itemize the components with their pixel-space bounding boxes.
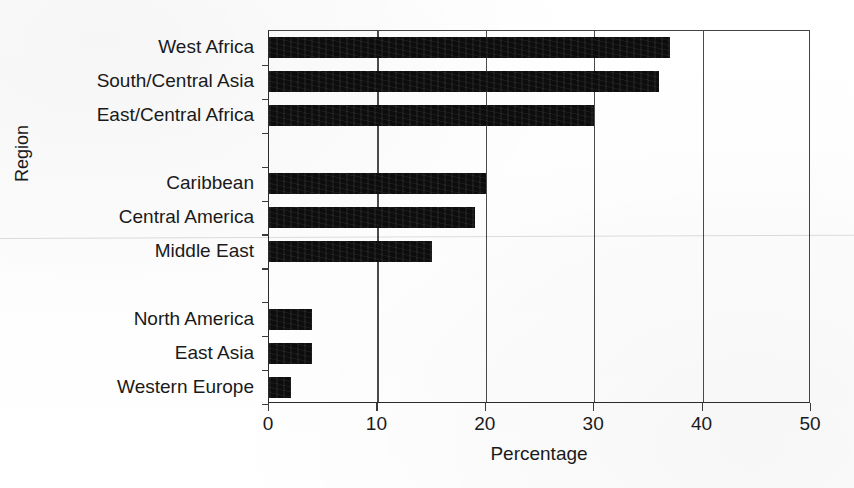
x-tick-label: 20 bbox=[474, 412, 495, 436]
y-tick bbox=[262, 167, 269, 168]
y-tick bbox=[262, 234, 269, 235]
bar bbox=[269, 207, 475, 228]
x-axis-title: Percentage bbox=[268, 443, 810, 465]
x-tick-0 bbox=[268, 403, 269, 411]
bar bbox=[269, 71, 659, 92]
y-axis-label: West Africa bbox=[158, 36, 254, 57]
y-tick bbox=[262, 370, 269, 371]
x-tick-label: 40 bbox=[691, 412, 712, 436]
bar bbox=[269, 173, 486, 194]
y-axis-label: South/Central Asia bbox=[97, 70, 254, 91]
y-axis-label: Western Europe bbox=[117, 376, 254, 397]
y-tick bbox=[262, 65, 269, 66]
bar-chart: West AfricaSouth/Central AsiaEast/Centra… bbox=[0, 0, 854, 488]
y-tick bbox=[262, 336, 269, 337]
x-tick-40 bbox=[702, 403, 703, 411]
y-axis-label: North America bbox=[134, 308, 254, 329]
y-axis-label: Caribbean bbox=[166, 172, 254, 193]
x-tick-10 bbox=[376, 403, 377, 411]
x-tick-label: 0 bbox=[263, 412, 274, 436]
y-tick bbox=[262, 99, 269, 100]
x-tick-label: 50 bbox=[799, 412, 820, 436]
bar bbox=[269, 377, 291, 398]
y-axis-category-labels: West AfricaSouth/Central AsiaEast/Centra… bbox=[0, 30, 262, 403]
x-tick-30 bbox=[593, 403, 594, 411]
bar bbox=[269, 309, 312, 330]
y-tick bbox=[262, 133, 269, 134]
y-tick bbox=[262, 268, 269, 269]
bar bbox=[269, 343, 312, 364]
gridline-40 bbox=[703, 31, 704, 402]
y-axis-label: Central America bbox=[119, 206, 254, 227]
x-tick-50 bbox=[810, 403, 811, 411]
bar bbox=[269, 105, 594, 126]
x-tick-label: 30 bbox=[583, 412, 604, 436]
bar bbox=[269, 37, 670, 58]
y-tick bbox=[262, 201, 269, 202]
x-tick-20 bbox=[485, 403, 486, 411]
y-axis-label: Middle East bbox=[155, 240, 254, 261]
x-tick-label: 10 bbox=[366, 412, 387, 436]
plot-area bbox=[268, 30, 810, 403]
y-axis-label: East/Central Africa bbox=[97, 104, 254, 125]
y-axis-title: Region bbox=[12, 125, 33, 182]
x-axis-tick-labels: 01020304050 bbox=[268, 412, 810, 438]
y-tick bbox=[262, 302, 269, 303]
bar bbox=[269, 241, 432, 262]
y-axis-label: East Asia bbox=[175, 342, 254, 363]
